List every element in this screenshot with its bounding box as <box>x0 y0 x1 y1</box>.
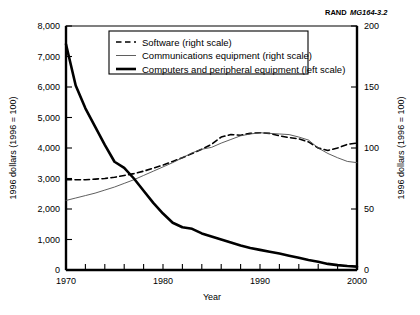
x-tick-label: 1980 <box>153 276 173 286</box>
x-axis-title: Year <box>203 292 221 302</box>
y-axis-title: 1996 dollars (1996 = 100) <box>8 97 18 200</box>
legend-label-0[interactable]: Software (right scale) <box>142 37 232 48</box>
y-tick-label: 5,000 <box>37 113 60 123</box>
figure-id-tag: RAND MG164-3.2 <box>325 8 388 17</box>
y2-tick-label: 50 <box>364 204 374 214</box>
legend-label-1[interactable]: Communications equipment (right scale) <box>142 50 312 61</box>
y-tick-label: 7,000 <box>37 52 60 62</box>
y-tick-label: 4,000 <box>37 143 60 153</box>
y2-tick-label: 200 <box>364 21 379 31</box>
y-tick-label: 3,000 <box>37 174 60 184</box>
figure-id-prefix: RAND <box>325 8 347 17</box>
x-tick-label: 1970 <box>56 276 76 286</box>
y2-axis-title: 1996 dollars (1996 = 100) <box>396 97 406 200</box>
y-tick-label: 2,000 <box>37 204 60 214</box>
x-tick-label: 1990 <box>250 276 270 286</box>
y-tick-label: 6,000 <box>37 82 60 92</box>
y2-tick-label: 100 <box>364 143 379 153</box>
y-tick-label: 0 <box>55 265 60 275</box>
figure-id-suffix: MG164-3.2 <box>350 8 388 17</box>
y2-tick-label: 0 <box>364 265 369 275</box>
x-tick-label: 2000 <box>347 276 367 286</box>
y-tick-label: 8,000 <box>37 21 60 31</box>
figure-chart: RAND MG164-3.2 01,0002,0003,0004,0005,00… <box>0 0 420 315</box>
legend-label-2[interactable]: Computers and peripheral equipment (left… <box>142 64 345 75</box>
y-tick-label: 1,000 <box>37 235 60 245</box>
y2-tick-label: 150 <box>364 82 379 92</box>
